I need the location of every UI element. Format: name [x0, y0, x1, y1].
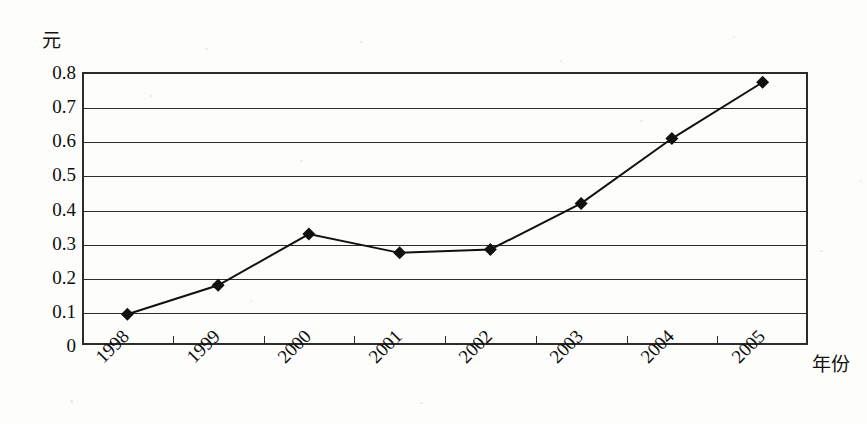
x-axis-tick-labels: 19981999200020012002200320042005 — [82, 345, 808, 415]
data-point-marker — [121, 308, 134, 321]
data-series-layer — [82, 72, 808, 345]
data-point-marker — [212, 279, 225, 292]
scan-speckle — [640, 120, 643, 122]
y-axis-unit-label: 元 — [42, 30, 61, 50]
x-tick-mark — [354, 336, 355, 345]
data-point-marker — [484, 243, 497, 256]
scan-speckle — [300, 160, 303, 162]
scan-speckle — [560, 60, 562, 62]
series-line — [127, 82, 762, 314]
x-axis-title: 年份 — [812, 354, 850, 374]
y-tick-label: 0.1 — [20, 301, 76, 320]
y-tick-label: 0.3 — [20, 233, 76, 252]
x-tick-mark — [173, 336, 174, 345]
line-chart: 元 00.10.20.30.40.50.60.70.8 199819992000… — [0, 0, 867, 424]
data-point-marker — [665, 132, 678, 145]
y-tick-label: 0.2 — [20, 267, 76, 286]
scan-speckle — [820, 250, 823, 252]
scan-speckle — [860, 180, 862, 182]
data-point-marker — [575, 197, 588, 210]
y-tick-label: 0.4 — [20, 199, 76, 218]
y-axis-tick-labels: 00.10.20.30.40.50.60.70.8 — [20, 60, 76, 352]
data-point-marker — [393, 246, 406, 259]
scan-speckle — [420, 402, 423, 404]
scan-speckle — [70, 400, 73, 403]
y-tick-label: 0 — [20, 336, 76, 355]
x-tick-mark — [445, 336, 446, 345]
y-tick-label: 0.6 — [20, 131, 76, 150]
x-tick-mark — [536, 336, 537, 345]
data-point-marker — [756, 76, 769, 89]
data-point-marker — [302, 228, 315, 241]
scan-speckle — [360, 41, 363, 43]
y-tick-label: 0.8 — [20, 63, 76, 82]
scan-speckle — [205, 48, 208, 50]
x-tick-mark — [717, 336, 718, 345]
y-tick-label: 0.7 — [20, 97, 76, 116]
x-tick-mark — [627, 336, 628, 345]
y-tick-label: 0.5 — [20, 165, 76, 184]
scan-speckle — [250, 300, 252, 302]
x-tick-mark — [264, 336, 265, 345]
scan-speckle — [150, 95, 152, 97]
scan-speckle — [733, 36, 735, 38]
